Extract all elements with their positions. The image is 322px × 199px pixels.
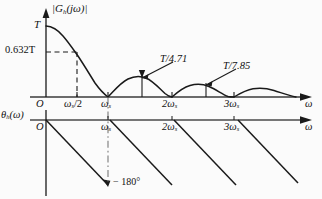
- xtick-3ws-sub: s: [237, 102, 240, 109]
- xtick-half-ws-tail: /2: [74, 98, 82, 109]
- phase-xtick-2ws-sub: s: [175, 125, 178, 132]
- phase-origin-label: O: [36, 122, 44, 133]
- phase-segment-4: [238, 120, 298, 183]
- magnitude-xaxis-label: ω: [305, 99, 312, 110]
- zoh-frequency-response-figure: |Gh(jω)| T 0.632T O ωs/2 ωs 2ωs 3ωs ω T/…: [0, 0, 322, 199]
- phase-xtick-label-2ws: 2ωs: [162, 122, 177, 133]
- magnitude-xtick-label-half-ws: ωs/2: [64, 99, 82, 110]
- magnitude-sidelobe-2: [172, 84, 234, 97]
- phase-yaxis-label-tail: (ω): [9, 109, 23, 120]
- phase-marker-minus-180: − 180°: [113, 177, 140, 187]
- magnitude-yaxis-label-tail: (jω)|: [66, 2, 87, 14]
- figure-canvas: [0, 0, 322, 199]
- magnitude-ytick-T: T: [34, 19, 40, 30]
- magnitude-ytick-0632T: 0.632T: [5, 45, 35, 56]
- xtick-ws-sub: s: [108, 102, 111, 109]
- magnitude-yaxis-label: |Gh(jω)|: [52, 3, 88, 15]
- xtick-2ws-main: 2ω: [162, 98, 175, 109]
- phase-xtick-label-ws: ωs: [101, 122, 111, 133]
- phase-segment-1: [46, 120, 108, 185]
- phase-xtick-3ws-main: 3ω: [224, 121, 237, 132]
- annotation-label-t471: T/4.71: [160, 54, 187, 65]
- magnitude-y-axis-arrow: [43, 8, 50, 18]
- xtick-3ws-main: 3ω: [224, 98, 237, 109]
- magnitude-sidelobe-1: [108, 76, 172, 97]
- phase-xtick-ws-sub: s: [108, 125, 111, 132]
- magnitude-xtick-label-3ws: 3ωs: [224, 99, 239, 110]
- phase-xaxis-label: ω: [305, 122, 312, 133]
- phase-xtick-2ws-main: 2ω: [162, 121, 175, 132]
- magnitude-origin-label: O: [36, 99, 44, 110]
- magnitude-xtick-label-ws: ωs: [101, 99, 111, 110]
- magnitude-sidelobe-3: [234, 88, 296, 97]
- phase-xtick-label-3ws: 3ωs: [224, 122, 239, 133]
- phase-xtick-3ws-sub: s: [237, 125, 240, 132]
- annotation-label-t785: T/7.85: [223, 61, 250, 72]
- magnitude-yaxis-label-main: |G: [52, 2, 63, 14]
- phase-arrow-1: [103, 180, 110, 187]
- phase-yaxis-label: θh(ω): [1, 110, 24, 121]
- magnitude-xtick-label-2ws: 2ωs: [162, 99, 177, 110]
- xtick-2ws-sub: s: [175, 102, 178, 109]
